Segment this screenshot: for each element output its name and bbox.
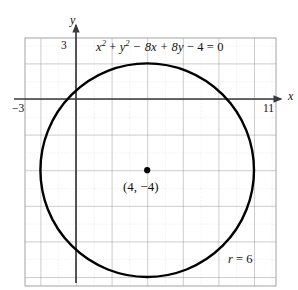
equation-minus-8x: − 8x: [130, 40, 157, 54]
x-axis-label: x: [288, 90, 293, 102]
equation-plus-8y: + 8y: [157, 40, 184, 54]
radius-value: = 6: [233, 252, 253, 266]
equation-annotation: x2 + y2 − 8x + 8y − 4 = 0: [96, 41, 224, 54]
center-point-marker: [144, 167, 150, 173]
tick-label-y-3: 3: [61, 40, 67, 52]
equation-minus-4-equals-0: − 4 = 0: [184, 40, 224, 54]
circle-graph-figure: y x 3 −3 11 x2 + y2 − 8x + 8y − 4 = 0 (4…: [0, 0, 298, 290]
grid-major-lines: [25, 38, 276, 286]
center-coordinate-label: (4, −4): [123, 180, 159, 193]
tick-label-x-neg3: −3: [12, 103, 24, 115]
equation-plus-1: +: [106, 40, 120, 54]
tick-label-x-11: 11: [263, 103, 274, 115]
radius-annotation: r = 6: [228, 253, 252, 266]
y-axis-label: y: [70, 14, 75, 26]
grid: [25, 38, 276, 286]
